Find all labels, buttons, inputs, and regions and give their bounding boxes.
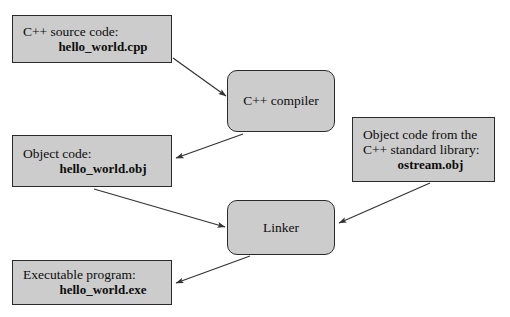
edge-source-to-compiler: [173, 58, 226, 96]
edge-linker-to-executable: [176, 256, 250, 283]
standard-library-filename: ostream.obj: [363, 157, 484, 173]
cpp-compiler-label: C++ compiler: [243, 93, 319, 109]
object-code-label: Object code:: [23, 146, 161, 161]
standard-library-label-line1: Object code from the: [363, 127, 484, 142]
standard-library-label-line2: C++ standard library:: [363, 142, 484, 157]
edge-object-to-linker: [94, 189, 225, 227]
node-object-code: Object code: hello_world.obj: [12, 135, 172, 187]
node-standard-library: Object code from the C++ standard librar…: [352, 117, 495, 182]
executable-program-filename: hello_world.exe: [23, 282, 161, 298]
node-cpp-compiler: C++ compiler: [227, 70, 335, 132]
executable-program-label: Executable program:: [23, 267, 161, 282]
source-code-filename: hello_world.cpp: [23, 39, 161, 55]
edge-compiler-to-object: [176, 134, 243, 158]
diagram-canvas: C++ source code: hello_world.cpp C++ com…: [0, 0, 510, 317]
source-code-label: C++ source code:: [23, 24, 161, 39]
linker-label: Linker: [263, 220, 299, 236]
object-code-filename: hello_world.obj: [23, 161, 161, 177]
node-linker: Linker: [227, 200, 335, 255]
node-source-code: C++ source code: hello_world.cpp: [12, 15, 172, 63]
edge-stdlib-to-linker: [339, 183, 430, 223]
node-executable-program: Executable program: hello_world.exe: [12, 260, 172, 305]
